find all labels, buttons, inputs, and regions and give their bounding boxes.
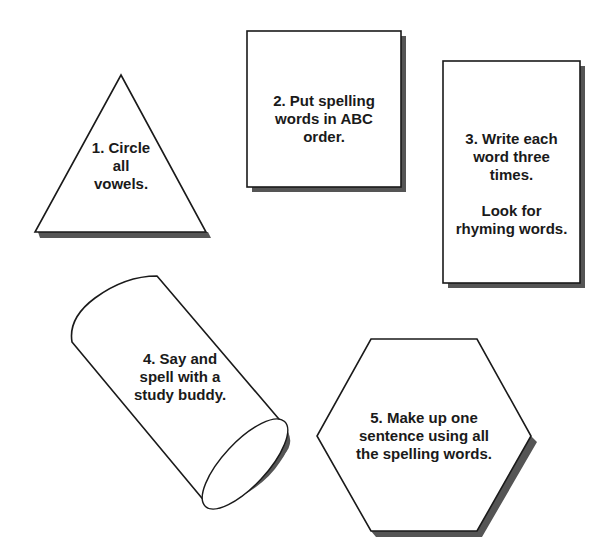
shapes-canvas bbox=[0, 0, 613, 554]
triangle-text-line-3: vowels. bbox=[71, 175, 171, 193]
square-card-text: 2. Put spelling words in ABC order. bbox=[247, 92, 401, 146]
tall-rectangle-card-text: 3. Write each word three times. Look for… bbox=[443, 130, 580, 238]
square-text-line-1: 2. Put spelling bbox=[247, 92, 401, 110]
rectangle-text-line-2: word three bbox=[443, 148, 580, 166]
cylinder-card-text: 4. Say and spell with a study buddy. bbox=[115, 350, 245, 404]
rectangle-text-line-4: Look for bbox=[443, 202, 580, 220]
square-text-line-3: order. bbox=[247, 128, 401, 146]
rectangle-text-line-3: times. bbox=[443, 166, 580, 184]
square-text-line-2: words in ABC bbox=[247, 110, 401, 128]
cylinder-text-line-1: 4. Say and bbox=[115, 350, 245, 368]
cylinder-text-line-2: spell with a bbox=[115, 368, 245, 386]
rectangle-text-line-5: rhyming words. bbox=[443, 220, 580, 238]
triangle-card-text: 1. Circle all vowels. bbox=[71, 139, 171, 193]
hexagon-text-line-3: the spelling words. bbox=[334, 445, 514, 463]
triangle-text-line-2: all bbox=[71, 157, 171, 175]
hexagon-text-line-1: 5. Make up one bbox=[334, 409, 514, 427]
hexagon-text-line-2: sentence using all bbox=[334, 427, 514, 445]
triangle-text-line-1: 1. Circle bbox=[71, 139, 171, 157]
cylinder-text-line-3: study buddy. bbox=[115, 386, 245, 404]
hexagon-card-text: 5. Make up one sentence using all the sp… bbox=[334, 409, 514, 463]
rectangle-text-line-1: 3. Write each bbox=[443, 130, 580, 148]
